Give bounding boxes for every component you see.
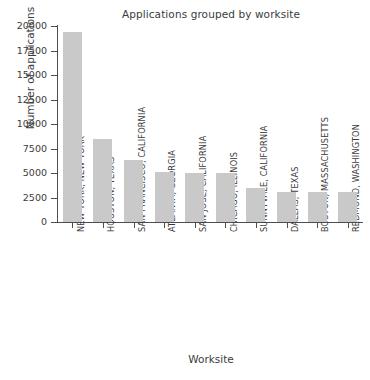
x-tick-mark xyxy=(287,223,288,228)
y-tick-label: 17500 xyxy=(0,45,47,56)
y-tick-label: 0 xyxy=(0,216,47,227)
bar xyxy=(216,173,235,222)
plot-area xyxy=(57,26,363,222)
bar xyxy=(308,192,327,222)
y-tick-label: 12500 xyxy=(0,94,47,105)
y-tick-label: 2500 xyxy=(0,192,47,203)
x-tick-mark xyxy=(225,223,226,228)
bar xyxy=(338,192,357,222)
bar xyxy=(277,192,296,222)
bar xyxy=(155,172,174,222)
y-tick-label: 20000 xyxy=(0,20,47,31)
x-tick-mark xyxy=(195,223,196,228)
x-tick-mark xyxy=(72,223,73,228)
x-axis-label: Worksite xyxy=(56,353,366,365)
bar xyxy=(93,139,112,222)
x-tick-mark xyxy=(134,223,135,228)
bar xyxy=(124,160,143,222)
x-tick-mark xyxy=(348,223,349,228)
chart-title: Applications grouped by worksite xyxy=(56,8,366,20)
y-tick-label: 5000 xyxy=(0,167,47,178)
x-tick-mark xyxy=(317,223,318,228)
x-tick-mark xyxy=(164,223,165,228)
bar-chart-figure: Applications grouped by worksite Number … xyxy=(0,0,370,380)
bar xyxy=(63,32,82,222)
y-tick-label: 10000 xyxy=(0,118,47,129)
bar xyxy=(246,188,265,222)
y-tick-label: 15000 xyxy=(0,69,47,80)
bar xyxy=(185,173,204,222)
x-tick-mark xyxy=(103,223,104,228)
y-tick-mark xyxy=(51,222,57,223)
y-tick-label: 7500 xyxy=(0,143,47,154)
x-tick-mark xyxy=(256,223,257,228)
